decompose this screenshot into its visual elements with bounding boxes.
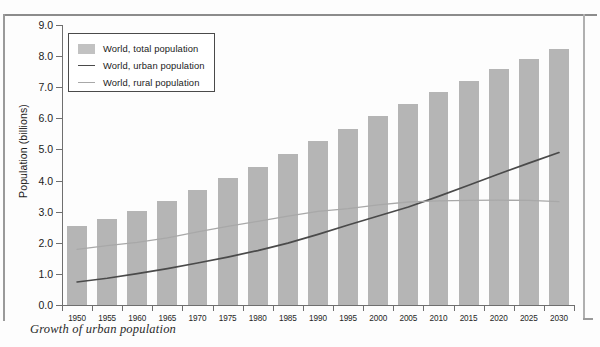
x-tick-label: 2015 (460, 315, 478, 323)
y-tick-label: 2.0 (38, 238, 53, 249)
chart-legend: World, total population World, urban pop… (68, 33, 215, 92)
chart-figure: Population (billions) 0.01.02.03.04.05.0… (0, 0, 600, 347)
x-tick (574, 305, 575, 311)
line-urban (77, 153, 559, 282)
y-tick-label: 3.0 (38, 206, 53, 217)
x-tick (62, 305, 63, 311)
legend-label-rural: World, rural population (103, 77, 199, 88)
x-tick-label: 1985 (279, 315, 297, 323)
x-tick (544, 305, 545, 311)
x-tick-label: 1975 (219, 315, 237, 323)
x-tick-label: 2000 (369, 315, 387, 323)
legend-item-total-population: World, total population (69, 40, 214, 57)
x-tick (152, 305, 153, 311)
legend-line-icon-rural (78, 82, 95, 83)
x-tick (273, 305, 274, 311)
legend-label-urban: World, urban population (103, 60, 205, 71)
y-tick-label: 1.0 (38, 269, 53, 280)
x-tick (363, 305, 364, 311)
x-tick (393, 305, 394, 311)
x-axis-line (62, 305, 574, 306)
x-tick (333, 305, 334, 311)
y-tick-label: 7.0 (38, 82, 53, 93)
legend-line-icon-urban (78, 65, 95, 66)
x-tick-label: 2010 (430, 315, 448, 323)
x-tick-label: 2025 (520, 315, 538, 323)
x-tick (303, 305, 304, 311)
legend-label-total: World, total population (103, 43, 198, 54)
x-tick-label: 1980 (249, 315, 267, 323)
y-axis-label: Population (billions) (17, 66, 29, 236)
legend-swatch-icon-total (78, 44, 95, 54)
x-tick-label: 2030 (550, 315, 568, 323)
y-tick-label: 6.0 (38, 113, 53, 124)
x-tick (514, 305, 515, 311)
x-tick-label: 2005 (399, 315, 417, 323)
y-tick-label: 5.0 (38, 144, 53, 155)
legend-item-urban-population: World, urban population (69, 57, 214, 74)
x-tick (213, 305, 214, 311)
legend-item-rural-population: World, rural population (69, 74, 214, 91)
figure-page: Population (billions) 0.01.02.03.04.05.0… (0, 0, 600, 347)
x-tick-label: 1995 (339, 315, 357, 323)
x-tick (92, 305, 93, 311)
x-tick-label: 1970 (189, 315, 207, 323)
y-tick-label: 8.0 (38, 51, 53, 62)
x-tick (243, 305, 244, 311)
x-tick-label: 2020 (490, 315, 508, 323)
x-tick (454, 305, 455, 311)
y-tick-label: 4.0 (38, 175, 53, 186)
x-tick-label: 1990 (309, 315, 327, 323)
x-tick (182, 305, 183, 311)
y-tick-label: 9.0 (38, 20, 53, 31)
x-tick (122, 305, 123, 311)
line-rural (77, 200, 559, 249)
x-tick (423, 305, 424, 311)
x-tick (484, 305, 485, 311)
y-tick-label: 0.0 (38, 300, 53, 311)
figure-caption: Growth of urban population (30, 322, 176, 337)
